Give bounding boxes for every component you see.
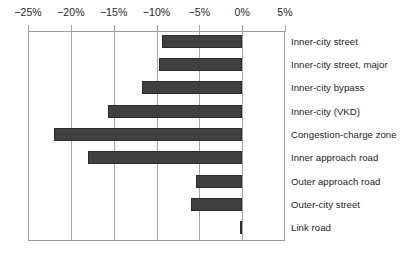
x-tick-mark — [285, 25, 286, 32]
category-label: Inner-city street, major — [291, 59, 388, 71]
x-tick-label: 0% — [234, 6, 249, 19]
category-label: Inner-city bypass — [291, 82, 364, 94]
category-labels: Inner-city streetInner-city street, majo… — [291, 31, 410, 241]
bar — [159, 58, 242, 71]
x-axis-tick-labels: −25%−20%−15%−10%−5%0%5% — [0, 6, 410, 24]
bar-chart: −25%−20%−15%−10%−5%0%5% Inner-city stree… — [0, 0, 410, 254]
category-label: Link road — [291, 222, 331, 234]
bar — [54, 128, 242, 141]
bar — [162, 35, 243, 48]
x-tick-label: −20% — [57, 6, 85, 19]
x-tick-label: −10% — [143, 6, 171, 19]
bar — [191, 198, 242, 211]
x-tick-label: −15% — [100, 6, 128, 19]
category-label: Outer approach road — [291, 176, 380, 188]
category-label: Outer-city street — [291, 199, 360, 211]
bar — [240, 221, 243, 234]
x-tick-label: 5% — [277, 6, 292, 19]
category-label: Congestion-charge zone — [291, 129, 397, 141]
bar — [196, 175, 242, 188]
bars-layer — [28, 31, 285, 241]
x-tick-label: −5% — [189, 6, 211, 19]
bar — [142, 81, 242, 94]
x-tick-label: −25% — [14, 6, 42, 19]
bar — [108, 105, 242, 118]
bar — [88, 151, 242, 164]
category-label: Inner-city street — [291, 36, 358, 48]
category-label: Inner-city (VKD) — [291, 106, 360, 118]
category-label: Inner approach road — [291, 152, 378, 164]
